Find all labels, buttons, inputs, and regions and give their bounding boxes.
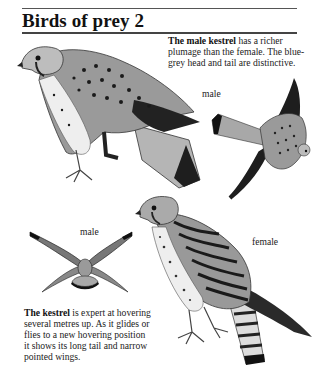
hovering-male-kestrel-illustration bbox=[30, 232, 140, 294]
header-rule-bottom bbox=[22, 32, 297, 34]
flying-male-kestrel-illustration bbox=[210, 78, 314, 200]
page-title: Birds of prey 2 bbox=[22, 10, 144, 32]
perched-male-kestrel-illustration bbox=[14, 40, 204, 190]
caption-lead: The kestrel bbox=[24, 307, 70, 318]
caption-kestrel-hovering: The kestrel is expert at hovering severa… bbox=[24, 307, 152, 362]
perched-female-kestrel-illustration bbox=[134, 192, 314, 372]
header-rule-top bbox=[22, 8, 297, 9]
